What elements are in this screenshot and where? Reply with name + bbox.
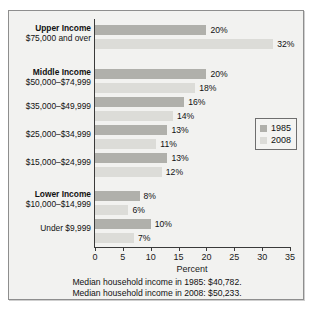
legend-item-1985: 1985 — [260, 122, 291, 134]
category-label-3: $25,000–$34,999 — [26, 129, 91, 139]
x-tick-label-5: 5 — [111, 252, 135, 262]
footnote-2008: Median household income in 2008: $50,233… — [9, 288, 305, 299]
category-label-sub-2: $35,000–$49,999 — [26, 101, 91, 111]
category-label-sub-0: $75,000 and over — [26, 33, 91, 43]
legend-swatch-1985-icon — [260, 125, 267, 132]
bar-2008-2 — [95, 111, 173, 121]
bar-1985-0 — [95, 25, 206, 35]
bar-1985-2 — [95, 97, 184, 107]
chart-footnotes: Median household income in 1985: $40,782… — [9, 277, 305, 299]
bar-1985-3 — [95, 125, 167, 135]
bar-value-label-1985-6: 10% — [155, 219, 172, 229]
category-label-2: $35,000–$49,999 — [26, 101, 91, 111]
category-label-sub-4: $15,000–$24,999 — [26, 157, 91, 167]
bar-value-label-1985-2: 16% — [188, 97, 205, 107]
x-tick-20 — [206, 247, 207, 251]
bar-value-label-1985-1: 20% — [210, 69, 227, 79]
x-tick-label-20: 20 — [194, 252, 218, 262]
bar-value-label-1985-3: 13% — [171, 125, 188, 135]
legend-label-2008: 2008 — [271, 135, 291, 145]
bar-1985-5 — [95, 191, 140, 201]
category-label-sub-6: Under $9,999 — [40, 223, 91, 233]
x-tick-label-15: 15 — [167, 252, 191, 262]
category-label-5: Lower Income$10,000–$14,999 — [26, 189, 91, 209]
category-label-sub-5: $10,000–$14,999 — [26, 199, 91, 209]
bar-1985-1 — [95, 69, 206, 79]
footnote-1985: Median household income in 1985: $40,782… — [9, 277, 305, 288]
bar-value-label-2008-3: 11% — [160, 139, 177, 149]
category-label-6: Under $9,999 — [40, 223, 91, 233]
x-tick-35 — [290, 247, 291, 251]
x-tick-30 — [262, 247, 263, 251]
x-tick-25 — [234, 247, 235, 251]
x-tick-label-0: 0 — [83, 252, 107, 262]
category-label-1: Middle Income$50,000–$74,999 — [26, 67, 91, 87]
bar-2008-1 — [95, 83, 195, 93]
bar-value-label-1985-5: 8% — [144, 191, 156, 201]
x-tick-0 — [95, 247, 96, 251]
bar-value-label-2008-2: 14% — [177, 111, 194, 121]
bar-value-label-2008-0: 32% — [277, 39, 294, 49]
x-axis-title: Percent — [94, 264, 290, 274]
bar-value-label-1985-0: 20% — [210, 25, 227, 35]
plot-area: 05101520253035 Percent Upper Income$75,0… — [9, 11, 305, 301]
bar-2008-4 — [95, 167, 162, 177]
bar-value-label-2008-4: 12% — [166, 167, 183, 177]
category-label-sub-3: $25,000–$34,999 — [26, 129, 91, 139]
chart-panel: 05101520253035 Percent Upper Income$75,0… — [8, 10, 304, 300]
bar-2008-6 — [95, 233, 134, 243]
x-tick-label-30: 30 — [250, 252, 274, 262]
category-label-sub-1: $50,000–$74,999 — [26, 77, 91, 87]
category-label-bold-1: Middle Income — [26, 67, 91, 77]
chart-legend: 1985 2008 — [255, 118, 297, 150]
category-label-bold-0: Upper Income — [26, 23, 91, 33]
bar-1985-6 — [95, 219, 151, 229]
bar-1985-4 — [95, 153, 167, 163]
category-label-0: Upper Income$75,000 and over — [26, 23, 91, 43]
legend-swatch-2008-icon — [260, 137, 267, 144]
bar-2008-5 — [95, 205, 128, 215]
x-tick-label-35: 35 — [278, 252, 302, 262]
bar-2008-3 — [95, 139, 156, 149]
x-tick-10 — [151, 247, 152, 251]
legend-label-1985: 1985 — [271, 123, 291, 133]
x-tick-label-10: 10 — [139, 252, 163, 262]
bar-2008-0 — [95, 39, 273, 49]
legend-item-2008: 2008 — [260, 134, 291, 146]
x-tick-label-25: 25 — [222, 252, 246, 262]
bar-value-label-2008-6: 7% — [138, 233, 150, 243]
category-label-4: $15,000–$24,999 — [26, 157, 91, 167]
category-label-bold-5: Lower Income — [26, 189, 91, 199]
x-tick-5 — [123, 247, 124, 251]
bar-value-label-1985-4: 13% — [171, 153, 188, 163]
bar-value-label-2008-5: 6% — [132, 205, 144, 215]
bar-value-label-2008-1: 18% — [199, 83, 216, 93]
x-tick-15 — [179, 247, 180, 251]
